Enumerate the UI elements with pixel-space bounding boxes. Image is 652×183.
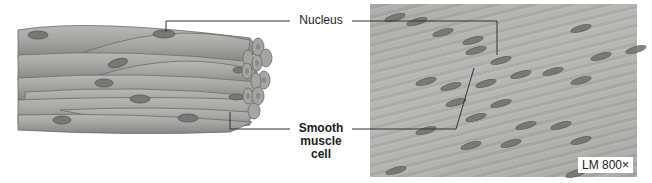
smooth-muscle-cell-label: Smooth muscle cell [290,122,352,161]
nucleus-label: Nucleus [292,14,350,27]
label-line-3: cell [290,148,352,161]
